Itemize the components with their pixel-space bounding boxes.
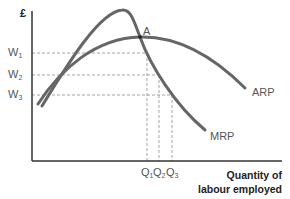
guide-lines — [32, 53, 172, 161]
w3-label: W3 — [8, 89, 22, 101]
y-axis-label: £ — [20, 8, 26, 19]
point-a-marker — [138, 35, 142, 39]
q1-label: Q1 — [141, 167, 153, 179]
arp-curve — [38, 37, 245, 104]
q3-label: Q3 — [166, 167, 178, 179]
x-axis-label-line1: Quantity of — [198, 168, 282, 182]
q2-text: Q — [153, 166, 162, 178]
w1-text: W — [8, 46, 18, 58]
x-axis-label-line2: labour employed — [198, 182, 282, 196]
q3-sub: 3 — [175, 172, 179, 179]
w2-text: W — [8, 68, 18, 80]
q3-text: Q — [166, 166, 175, 178]
q2-sub: 2 — [162, 172, 166, 179]
w2-sub: 2 — [18, 74, 22, 81]
q1-text: Q — [141, 166, 150, 178]
w3-sub: 3 — [18, 94, 22, 101]
point-a-label: A — [143, 26, 150, 37]
w1-sub: 1 — [18, 52, 22, 59]
arp-label: ARP — [252, 87, 275, 98]
w1-label: W1 — [8, 47, 22, 59]
mrp-label: MRP — [210, 131, 234, 142]
w2-label: W2 — [8, 69, 22, 81]
q2-label: Q2 — [153, 167, 165, 179]
x-axis-label: Quantity of labour employed — [198, 168, 282, 196]
w3-text: W — [8, 88, 18, 100]
